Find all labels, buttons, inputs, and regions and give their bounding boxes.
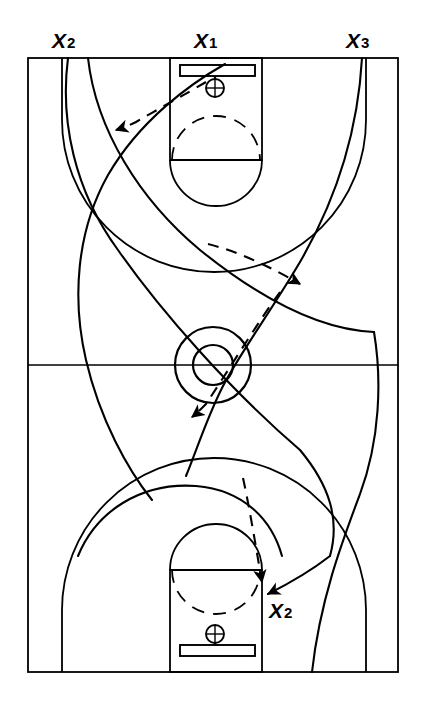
player-label-x2-top-letter: X — [52, 29, 66, 52]
player-label-x1-top: X1 — [194, 30, 217, 51]
player-label-x2-bottom: X2 — [269, 600, 292, 621]
player-label-x3-top-number: 3 — [361, 34, 369, 51]
top-backboard — [180, 65, 255, 76]
court-svg — [0, 0, 426, 710]
basketball-play-diagram: X2 X1 X3 X2 — [0, 0, 426, 710]
player-label-x2-top-number: 2 — [67, 34, 75, 51]
player-label-x1-top-letter: X — [194, 29, 208, 52]
player-label-x2-bottom-letter: X — [269, 599, 283, 622]
player-label-x1-top-number: 1 — [209, 34, 217, 51]
bottom-backboard — [180, 645, 255, 656]
player-label-x3-top-letter: X — [346, 29, 360, 52]
player-label-x2-top: X2 — [52, 30, 75, 51]
player-label-x3-top: X3 — [346, 30, 369, 51]
player-label-x2-bottom-number: 2 — [284, 604, 292, 621]
